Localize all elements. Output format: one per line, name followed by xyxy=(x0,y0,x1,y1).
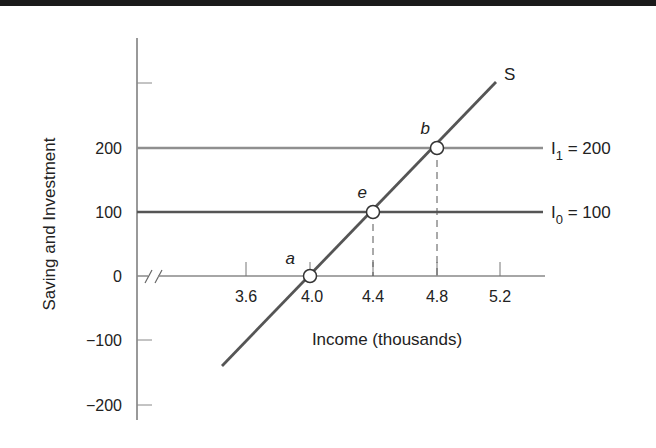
x-tick-label: 3.6 xyxy=(235,288,257,305)
x-tick-label: 5.2 xyxy=(489,288,511,305)
point-b xyxy=(431,142,444,155)
y-tick-label: −100 xyxy=(86,332,122,349)
saving-line-s xyxy=(222,82,496,366)
point-label-e: e xyxy=(358,183,367,202)
s-label: S xyxy=(504,65,515,84)
y-tick-label: −200 xyxy=(86,397,122,414)
x-tick-label: 4.0 xyxy=(301,288,323,305)
i0-label: I0 = 100 xyxy=(551,203,611,227)
x-tick-label: 4.4 xyxy=(362,288,384,305)
i1-label: I1 = 200 xyxy=(551,139,611,163)
y-axis-title: Saving and Investment xyxy=(40,137,59,310)
point-label-a: a xyxy=(286,249,295,268)
y-tick-label: 0 xyxy=(113,268,122,285)
y-tick-label: 100 xyxy=(95,204,122,221)
point-e xyxy=(367,206,380,219)
point-label-b: b xyxy=(421,119,430,138)
x-tick-label: 4.8 xyxy=(426,288,448,305)
point-a xyxy=(304,270,317,283)
x-axis-title: Income (thousands) xyxy=(312,330,462,349)
chart: 200 100 0 −100 −200 3.6 4.0 4.4 4.8 5.2 … xyxy=(0,0,656,448)
y-tick-label: 200 xyxy=(95,140,122,157)
